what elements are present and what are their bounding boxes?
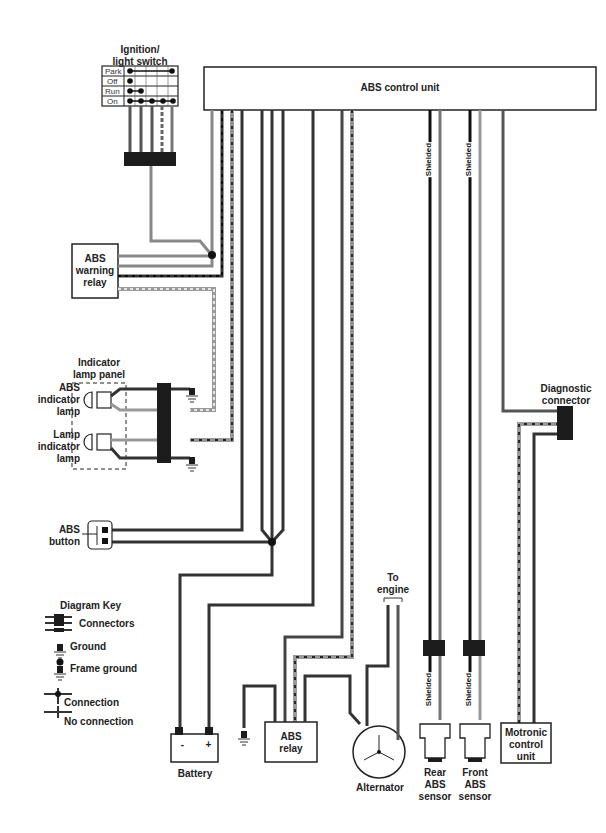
- indicator-lamp-panel-label: Indicator lamp panel: [66, 357, 132, 381]
- lamp-indicator-lamp-label: Lamp indicator lamp: [22, 429, 80, 465]
- alternator-label: Alternator: [350, 782, 410, 794]
- key-ground-icon: [54, 644, 66, 658]
- abs-indicator-lamp-symbol: [84, 389, 190, 410]
- battery-pos-label: +: [197, 739, 220, 751]
- svg-text:Off: Off: [107, 77, 118, 86]
- abs-button-symbol: [82, 521, 112, 549]
- front-sensor-wires: [463, 110, 485, 720]
- battery-neg-label: -: [171, 739, 194, 751]
- key-frame-ground-icon: [54, 659, 66, 681]
- ignition-connector: [124, 152, 176, 166]
- ignition-switch-grid: Park Off Run On: [102, 66, 178, 106]
- abs-warning-relay-label: ABS warning relay: [72, 253, 118, 289]
- ignition-switch-label: Ignition/ light switch: [102, 44, 178, 68]
- shielded-label-rear-bottom: Shielded: [424, 672, 433, 707]
- rear-sensor-wires: [423, 110, 445, 720]
- key-item-connectors: Connectors: [79, 618, 135, 630]
- motronic-control-unit-label: Motronic control unit: [501, 727, 551, 763]
- battery-label: Battery: [165, 768, 225, 780]
- key-item-no-connection: No connection: [64, 716, 133, 728]
- abs-indicator-lamp-label: ABS indicator lamp: [22, 382, 80, 418]
- svg-text:Park: Park: [105, 67, 122, 76]
- to-engine-label: To engine: [368, 572, 418, 596]
- key-connectors-icon: [45, 614, 72, 632]
- svg-text:Run: Run: [105, 87, 120, 96]
- rear-abs-sensor-shape: [420, 724, 450, 758]
- key-item-connection: Connection: [64, 697, 119, 709]
- diagram-key-title: Diagram Key: [60, 600, 121, 612]
- key-item-ground: Ground: [70, 641, 106, 653]
- shielded-label-front-top: Shielded: [464, 142, 473, 177]
- abs-relay-label: ABS relay: [265, 731, 317, 755]
- abs-button-label: ABS button: [30, 524, 80, 548]
- key-item-frame-ground: Frame ground: [70, 663, 137, 675]
- svg-text:On: On: [107, 97, 118, 106]
- abs-control-unit-label: ABS control unit: [204, 82, 596, 94]
- lamp-indicator-lamp-symbol: [84, 434, 190, 458]
- diagnostic-connector-label: Diagnostic connector: [528, 383, 604, 407]
- shielded-label-rear-top: Shielded: [424, 142, 433, 177]
- lamp-panel-connector: [157, 383, 171, 463]
- diagnostic-connector-block: [557, 406, 573, 440]
- front-abs-sensor-label: Front ABS sensor: [450, 767, 500, 803]
- shielded-label-front-bottom: Shielded: [464, 672, 473, 707]
- front-abs-sensor-shape: [460, 724, 490, 758]
